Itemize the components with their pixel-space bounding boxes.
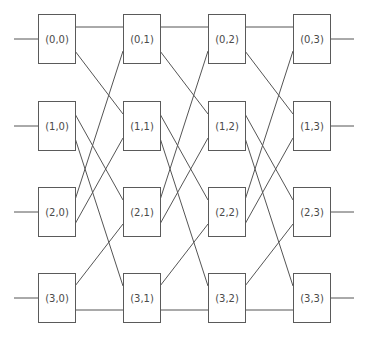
switch-label: (0,3) bbox=[300, 34, 324, 45]
shuffle-link bbox=[245, 224, 293, 286]
shuffle-link bbox=[75, 224, 123, 286]
shuffle-link bbox=[245, 51, 293, 114]
switch-node: (1,3) bbox=[294, 102, 331, 151]
omega-network-diagram: (0,0)(0,1)(0,2)(0,3)(1,0)(1,1)(1,2)(1,3)… bbox=[0, 0, 367, 337]
switch-node: (1,2) bbox=[209, 102, 246, 151]
switch-node: (0,1) bbox=[124, 15, 161, 64]
switch-node: (1,1) bbox=[124, 102, 161, 151]
shuffle-link bbox=[160, 51, 208, 114]
switch-label: (2,0) bbox=[45, 207, 69, 218]
switch-label: (3,0) bbox=[45, 293, 69, 304]
shuffle-link bbox=[75, 51, 123, 200]
switch-node: (0,0) bbox=[39, 15, 76, 64]
switch-label: (1,2) bbox=[215, 121, 239, 132]
switch-node: (0,3) bbox=[294, 15, 331, 64]
switch-node: (3,2) bbox=[209, 274, 246, 323]
switch-label: (1,0) bbox=[45, 121, 69, 132]
shuffle-link bbox=[245, 51, 293, 200]
switch-label: (0,1) bbox=[130, 34, 154, 45]
switch-node: (2,3) bbox=[294, 188, 331, 237]
switch-label: (2,2) bbox=[215, 207, 239, 218]
switch-label: (1,1) bbox=[130, 121, 154, 132]
switch-node: (1,0) bbox=[39, 102, 76, 151]
switch-node: (0,2) bbox=[209, 15, 246, 64]
switch-node: (3,3) bbox=[294, 274, 331, 323]
switch-label: (0,2) bbox=[215, 34, 239, 45]
shuffle-link bbox=[160, 51, 208, 200]
switch-label: (3,2) bbox=[215, 293, 239, 304]
switch-label: (0,0) bbox=[45, 34, 69, 45]
switch-node: (3,0) bbox=[39, 274, 76, 323]
switch-label: (2,1) bbox=[130, 207, 154, 218]
network-wires bbox=[14, 27, 354, 310]
switch-node: (3,1) bbox=[124, 274, 161, 323]
switch-node: (2,1) bbox=[124, 188, 161, 237]
switch-label: (3,3) bbox=[300, 293, 324, 304]
switch-label: (1,3) bbox=[300, 121, 324, 132]
switch-node: (2,0) bbox=[39, 188, 76, 237]
switch-node: (2,2) bbox=[209, 188, 246, 237]
switch-label: (3,1) bbox=[130, 293, 154, 304]
shuffle-link bbox=[75, 51, 123, 114]
switch-label: (2,3) bbox=[300, 207, 324, 218]
shuffle-link bbox=[160, 224, 208, 286]
